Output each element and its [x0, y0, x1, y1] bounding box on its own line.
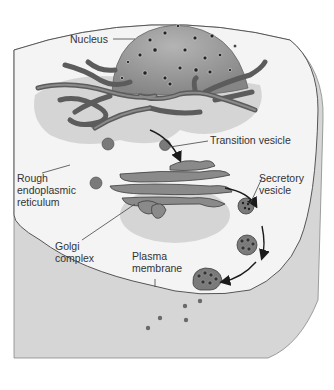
secretory-vesicle — [237, 235, 257, 255]
label-transition-vesicle: Transition vesicle — [210, 134, 291, 146]
transition-vesicle — [102, 138, 114, 150]
label-nucleus: Nucleus — [70, 33, 108, 45]
label-secretory-vesicle: Secretory vesicle — [259, 172, 304, 196]
transition-vesicle — [160, 140, 171, 151]
exocytosis-vesicle — [193, 268, 222, 290]
secretory-pathway-diagram: Nucleus Transition vesicle Rough endopla… — [0, 0, 334, 390]
transition-vesicle — [90, 177, 102, 189]
label-golgi-complex: Golgi complex — [55, 240, 94, 264]
golgi-haze — [120, 187, 230, 243]
label-rough-er: Rough endoplasmic reticulum — [17, 172, 76, 208]
label-plasma-membrane: Plasma membrane — [132, 250, 182, 274]
